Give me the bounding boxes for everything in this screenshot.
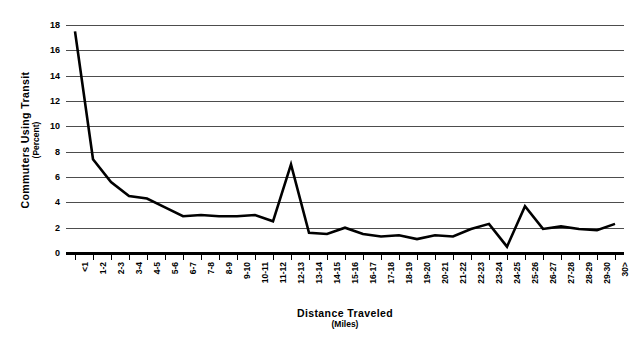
y-tick-label: 8 — [55, 147, 60, 157]
x-tick-mark — [561, 253, 562, 260]
x-tick-label: 5-6 — [169, 262, 181, 306]
y-tick-label: 4 — [55, 197, 60, 207]
x-tick-mark — [327, 253, 328, 260]
x-tick-label: 17-18 — [385, 262, 397, 306]
x-tick-label: 1-2 — [97, 262, 109, 306]
x-tick-mark — [129, 253, 130, 260]
y-tick-label: 12 — [50, 96, 60, 106]
x-tick-label: 10-11 — [259, 262, 271, 306]
transit-commuters-line-chart: Commuters Using Transit (Percent) 024681… — [0, 0, 630, 347]
x-tick-label: 26-27 — [547, 262, 559, 306]
x-tick-label: 8-9 — [223, 262, 235, 306]
x-tick-mark — [345, 253, 346, 260]
x-tick-mark — [219, 253, 220, 260]
x-tick-label: 2-3 — [115, 262, 127, 306]
x-tick-label: 7-8 — [205, 262, 217, 306]
x-tick-mark — [201, 253, 202, 260]
y-tick-label: 10 — [50, 121, 60, 131]
x-tick-mark — [237, 253, 238, 260]
x-tick-label: 28-29 — [583, 262, 595, 306]
x-tick-label: 18-19 — [403, 262, 415, 306]
x-tick-label: 4-5 — [151, 262, 163, 306]
x-tick-mark — [615, 253, 616, 260]
data-series-line — [66, 25, 624, 253]
x-tick-label: 24-25 — [511, 262, 523, 306]
x-axis-tick-marks — [66, 253, 624, 260]
y-axis-tick-labels: 024681012141618 — [0, 0, 66, 347]
x-tick-label: 29-30 — [601, 262, 613, 306]
x-tick-mark — [543, 253, 544, 260]
x-tick-mark — [273, 253, 274, 260]
x-tick-label: 9-10 — [241, 262, 253, 306]
x-tick-mark — [399, 253, 400, 260]
x-tick-label: 11-12 — [277, 262, 289, 306]
x-tick-mark — [435, 253, 436, 260]
x-tick-mark — [147, 253, 148, 260]
x-tick-mark — [417, 253, 418, 260]
x-tick-mark — [597, 253, 598, 260]
y-tick-label: 18 — [50, 20, 60, 30]
x-tick-label: 15-16 — [349, 262, 361, 306]
x-tick-label: 23-24 — [493, 262, 505, 306]
y-tick-label: 6 — [55, 172, 60, 182]
x-tick-mark — [363, 253, 364, 260]
x-tick-mark — [507, 253, 508, 260]
x-tick-label: 20-21 — [439, 262, 451, 306]
x-axis-title-sub: (Miles) — [66, 320, 624, 330]
x-tick-label: 22-23 — [475, 262, 487, 306]
x-tick-mark — [93, 253, 94, 260]
x-tick-label: 12-13 — [295, 262, 307, 306]
x-tick-mark — [165, 253, 166, 260]
x-tick-label: 16-17 — [367, 262, 379, 306]
x-tick-mark — [183, 253, 184, 260]
x-axis-tick-labels: <11-22-33-44-55-66-77-88-99-1010-1111-12… — [66, 262, 624, 306]
x-tick-mark — [471, 253, 472, 260]
y-tick-label: 0 — [55, 248, 60, 258]
x-tick-label: 25-26 — [529, 262, 541, 306]
x-tick-label: 19-20 — [421, 262, 433, 306]
x-axis-title-main: Distance Traveled — [66, 307, 624, 319]
plot-area — [66, 25, 624, 253]
series-polyline — [75, 31, 615, 246]
y-tick-label: 2 — [55, 223, 60, 233]
x-tick-label: 30> — [619, 262, 630, 306]
x-tick-mark — [453, 253, 454, 260]
x-tick-label: 27-28 — [565, 262, 577, 306]
x-tick-label: 6-7 — [187, 262, 199, 306]
x-axis-title: Distance Traveled (Miles) — [66, 307, 624, 330]
x-tick-label: 21-22 — [457, 262, 469, 306]
x-tick-mark — [75, 253, 76, 260]
x-tick-mark — [525, 253, 526, 260]
x-tick-mark — [489, 253, 490, 260]
x-tick-label: 13-14 — [313, 262, 325, 306]
x-tick-mark — [309, 253, 310, 260]
y-tick-label: 16 — [50, 45, 60, 55]
x-tick-mark — [579, 253, 580, 260]
x-tick-label: 14-15 — [331, 262, 343, 306]
x-tick-mark — [381, 253, 382, 260]
x-tick-mark — [111, 253, 112, 260]
x-tick-label: <1 — [79, 262, 91, 306]
x-tick-label: 3-4 — [133, 262, 145, 306]
y-tick-label: 14 — [50, 71, 60, 81]
x-tick-mark — [291, 253, 292, 260]
x-tick-mark — [255, 253, 256, 260]
